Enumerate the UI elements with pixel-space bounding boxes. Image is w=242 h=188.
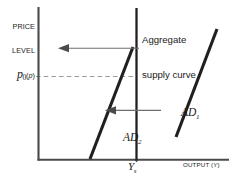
ad2-curve-label: AD2 [123,131,142,144]
paren-close: ) [33,71,36,80]
output-tick-label: Ys [128,160,137,173]
y-axis-title-line1: PRICE [2,23,35,31]
diagram-canvas [0,0,242,188]
as-label-line2: supply curve [142,69,196,81]
x-axis-title-paren-close: ) [218,161,220,168]
aggregate-supply-curve-label: Aggregate supply curve [142,11,196,104]
p0-subscript: 0 [23,73,27,82]
price-level-tick-label: p0 [17,68,27,81]
ad1-base: AD [181,106,196,118]
shift-arrow-lower [105,106,161,114]
x-axis-title-text: OUTPUT ( [183,161,213,168]
ys-subscript: s [134,167,137,175]
y-axis-title: PRICE LEVEL (p) [2,7,35,96]
ad2-base: AD [123,131,138,143]
x-axis-title: OUTPUT (Y) [183,162,220,169]
ad2-subscript: 2 [138,138,142,146]
as-label-line1: Aggregate [142,34,196,46]
ad1-curve-label: AD1 [181,106,200,119]
y-axis-title-line2: LEVEL [2,47,35,55]
ad1-subscript: 1 [196,113,200,121]
aggregate-demand-supply-diagram: PRICE LEVEL (p) OUTPUT (Y) p0 Ys AD1 AD2… [0,0,242,188]
shift-arrow-upper [58,44,139,52]
